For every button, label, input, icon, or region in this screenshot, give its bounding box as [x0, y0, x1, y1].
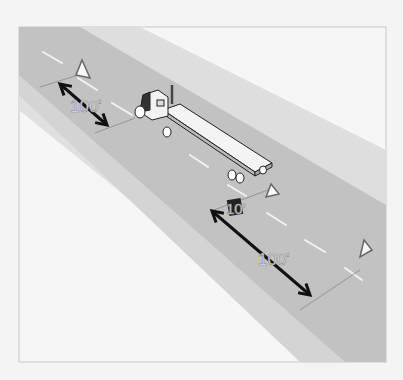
front-distance-label: 100': [258, 250, 290, 269]
trailer-wheel: [228, 170, 236, 180]
diagram-canvas: 100' 10' 100': [0, 0, 403, 380]
cab-wheel: [163, 127, 171, 137]
trailer-wheel: [260, 166, 267, 174]
trailer-wheel: [236, 173, 244, 183]
near-distance-label: 10': [226, 200, 246, 217]
cab-wheel: [135, 106, 145, 118]
rear-distance-label: 100': [70, 97, 102, 116]
